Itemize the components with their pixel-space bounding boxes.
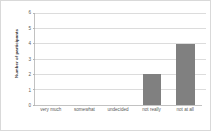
x-axis-tick-label: not at all bbox=[168, 108, 202, 113]
bar-slot bbox=[135, 13, 168, 105]
y-axis-tick-label: 4 bbox=[28, 42, 31, 47]
bar-not-at-all[interactable] bbox=[176, 44, 195, 105]
x-axis-tick-label: very much bbox=[34, 108, 68, 113]
x-axis-tick-label: somewhat bbox=[68, 108, 102, 113]
x-axis-tick-label: undecided bbox=[101, 108, 135, 113]
y-axis-tick-label: 3 bbox=[28, 57, 31, 62]
y-axis-tick-label: 2 bbox=[28, 73, 31, 78]
plot-area bbox=[34, 13, 202, 106]
y-axis-tick-label: 1 bbox=[28, 88, 31, 93]
bar-not-really[interactable] bbox=[143, 74, 162, 105]
y-axis-tick-labels: 0123456 bbox=[21, 13, 33, 106]
y-axis-tick-label: 6 bbox=[28, 11, 31, 16]
bars-group bbox=[35, 13, 202, 105]
y-axis-title-text: Number of participants bbox=[14, 29, 19, 78]
y-axis-tick-label: 5 bbox=[28, 26, 31, 31]
bar-chart: Number of participants 0123456 very much… bbox=[0, 0, 211, 131]
bar-slot bbox=[35, 13, 68, 105]
x-axis-tick-label: not really bbox=[135, 108, 169, 113]
x-axis-tick-labels: very muchsomewhatundecidednot reallynot … bbox=[34, 108, 202, 113]
bar-slot bbox=[169, 13, 202, 105]
bar-slot bbox=[102, 13, 135, 105]
bar-slot bbox=[68, 13, 101, 105]
y-axis-tick-label: 0 bbox=[28, 104, 31, 109]
